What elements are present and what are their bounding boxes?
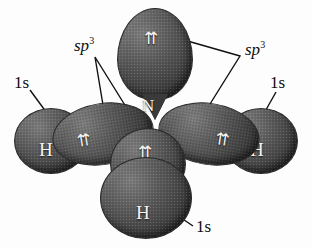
label-sp3-right-base: sp xyxy=(245,40,260,59)
electron-pair-lone-top: ⇈ xyxy=(144,30,157,47)
orbital-diagram: H H ⇈ ⇈ ⇈ ⇈ H N xyxy=(0,0,312,247)
label-sp3-left-base: sp xyxy=(74,36,89,55)
label-1s-right: 1s xyxy=(270,74,285,91)
hydrogen-label-bottom: H xyxy=(136,203,150,222)
label-sp3-right: sp3 xyxy=(245,40,265,58)
lobe-surface xyxy=(117,8,193,100)
sphere-surface xyxy=(100,157,192,239)
label-sp3-right-exponent: 3 xyxy=(260,39,265,50)
label-sp3-left-exponent: 3 xyxy=(89,35,94,46)
label-1s-bottom: 1s xyxy=(196,218,211,235)
label-sp3-left: sp3 xyxy=(74,36,94,54)
electron-pair-bond-right: ⇈ xyxy=(214,130,230,149)
nitrogen-label: N xyxy=(142,97,154,114)
label-1s-left: 1s xyxy=(14,74,29,91)
electron-pair-bond-left: ⇈ xyxy=(76,131,92,150)
hydrogen-label-left: H xyxy=(39,140,53,159)
hydrogen-1s-sphere-bottom: H xyxy=(100,157,192,239)
sp3-lobe-lone-pair-top: ⇈ xyxy=(117,8,193,100)
